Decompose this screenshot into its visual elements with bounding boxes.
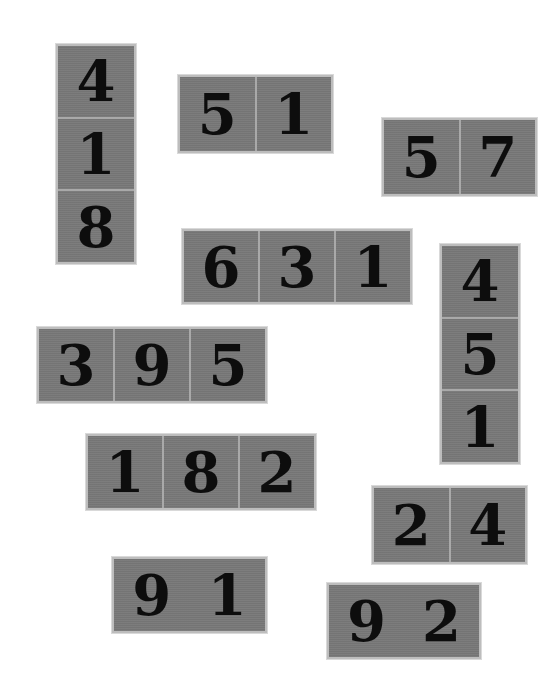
tile-digit: 1 bbox=[255, 77, 332, 151]
tile-digit: 8 bbox=[162, 436, 238, 508]
tile-digit: 4 bbox=[58, 46, 134, 117]
tile-digit: 3 bbox=[39, 329, 113, 401]
tile-digit: 8 bbox=[58, 189, 134, 262]
tile-digit: 7 bbox=[459, 120, 536, 194]
tile-digit: 3 bbox=[258, 231, 334, 302]
tile-digit: 4 bbox=[442, 246, 518, 317]
tile-digit: 2 bbox=[404, 585, 479, 657]
tile-digit: 1 bbox=[442, 389, 518, 462]
tile-digit: 6 bbox=[184, 231, 258, 302]
tile-418[interactable]: 4 1 8 bbox=[56, 44, 136, 264]
tile-digit: 9 bbox=[329, 585, 404, 657]
number-tile-board: 4 1 8 5 1 5 7 6 3 1 4 5 1 3 9 5 1 8 2 2 … bbox=[0, 0, 559, 692]
tile-digit: 1 bbox=[88, 436, 162, 508]
tile-182[interactable]: 1 8 2 bbox=[86, 434, 316, 510]
tile-digit: 9 bbox=[114, 559, 190, 631]
tile-451[interactable]: 4 5 1 bbox=[440, 244, 520, 464]
tile-digit: 1 bbox=[334, 231, 410, 302]
tile-digit: 2 bbox=[374, 488, 449, 562]
tile-631[interactable]: 6 3 1 bbox=[182, 229, 412, 304]
tile-digit: 9 bbox=[113, 329, 189, 401]
tile-digit: 1 bbox=[58, 117, 134, 190]
tile-51[interactable]: 5 1 bbox=[178, 75, 333, 153]
tile-92[interactable]: 9 2 bbox=[327, 583, 481, 659]
tile-395[interactable]: 3 9 5 bbox=[37, 327, 267, 403]
tile-57[interactable]: 5 7 bbox=[382, 118, 537, 196]
tile-digit: 5 bbox=[180, 77, 255, 151]
tile-digit: 2 bbox=[238, 436, 314, 508]
tile-24[interactable]: 2 4 bbox=[372, 486, 527, 564]
tile-91[interactable]: 9 1 bbox=[112, 557, 267, 633]
tile-digit: 5 bbox=[442, 317, 518, 390]
tile-digit: 5 bbox=[384, 120, 459, 194]
tile-digit: 1 bbox=[190, 559, 266, 631]
tile-digit: 4 bbox=[449, 488, 526, 562]
tile-digit: 5 bbox=[189, 329, 265, 401]
